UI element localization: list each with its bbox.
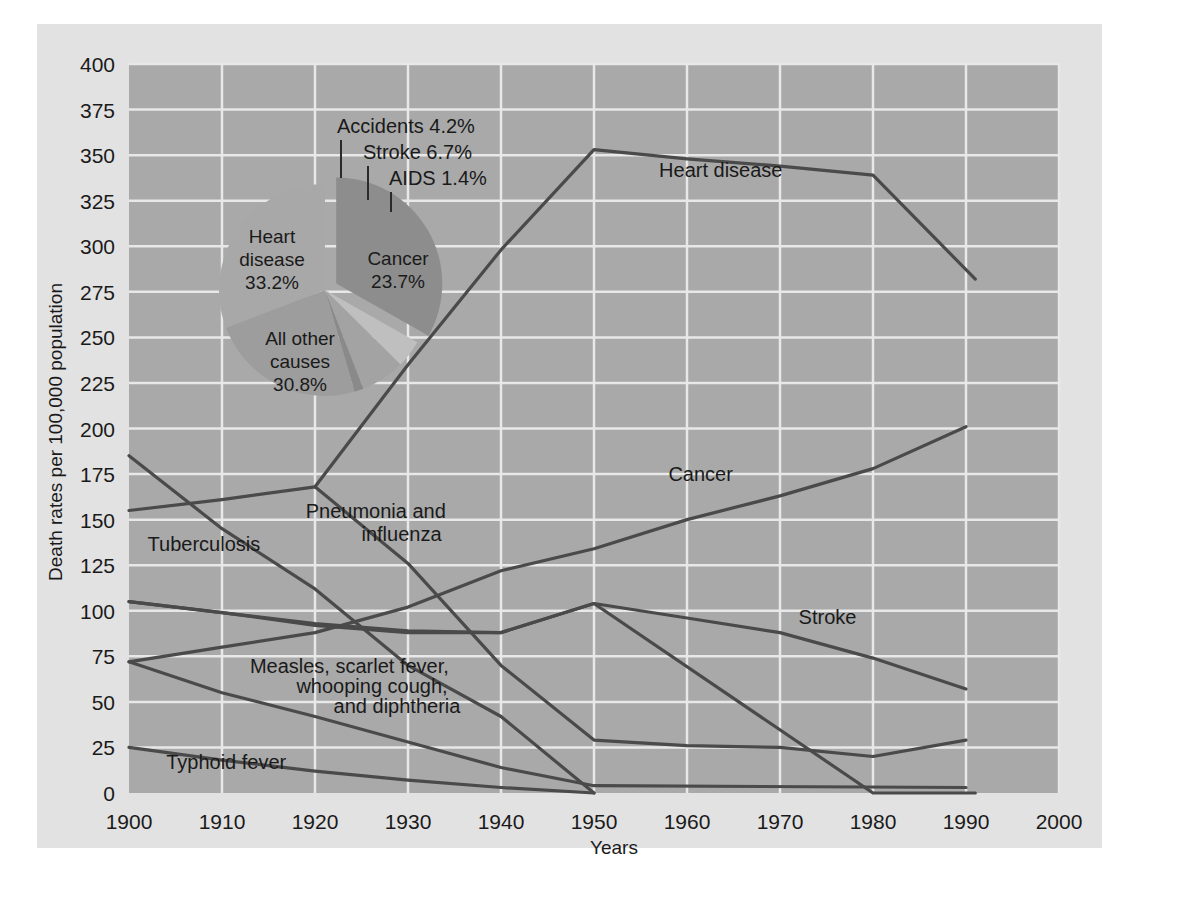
y-tick-label: 50 — [92, 691, 115, 714]
x-axis-title: Years — [590, 837, 638, 858]
series-inline-label: Measles, scarlet fever, — [250, 655, 449, 677]
x-tick-label: 1980 — [850, 810, 897, 833]
series-inline-label: Typhoid fever — [166, 751, 286, 773]
pie-slice-label: 23.7% — [371, 271, 425, 292]
x-tick-label: 1900 — [106, 810, 153, 833]
x-tick-label: 1940 — [478, 810, 525, 833]
pie-slice-label: 33.2% — [245, 272, 299, 293]
y-tick-label: 175 — [80, 463, 115, 486]
x-tick-label: 1930 — [385, 810, 432, 833]
x-axis-tick-labels: 1900191019201930194019501960197019801990… — [106, 810, 1083, 833]
series-inline-label: influenza — [362, 523, 443, 545]
y-tick-label: 25 — [92, 736, 115, 759]
y-tick-label: 0 — [103, 782, 115, 805]
y-tick-label: 100 — [80, 600, 115, 623]
x-tick-label: 1970 — [757, 810, 804, 833]
x-tick-label: 1950 — [571, 810, 618, 833]
series-inline-label: and diphtheria — [334, 695, 462, 717]
y-tick-label: 325 — [80, 190, 115, 213]
series-inline-label: Cancer — [668, 463, 733, 485]
pie-slice-label: disease — [239, 249, 305, 270]
y-tick-label: 125 — [80, 554, 115, 577]
x-tick-label: 1960 — [664, 810, 711, 833]
y-tick-label: 150 — [80, 509, 115, 532]
series-inline-label: Pneumonia and — [306, 500, 446, 522]
y-tick-label: 200 — [80, 418, 115, 441]
pie-slice-label: Cancer — [367, 248, 429, 269]
y-tick-label: 300 — [80, 235, 115, 258]
pie-slice-label: Heart — [249, 226, 296, 247]
x-tick-label: 1990 — [943, 810, 990, 833]
series-inline-label: Tuberculosis — [148, 533, 261, 555]
y-tick-label: 75 — [92, 645, 115, 668]
x-tick-label: 1920 — [292, 810, 339, 833]
series-inline-label: Heart disease — [659, 159, 782, 181]
figure-container: 0255075100125150175200225250275300325350… — [0, 0, 1179, 898]
y-axis-title: Death rates per 100,000 population — [45, 283, 66, 581]
y-axis-tick-labels: 0255075100125150175200225250275300325350… — [80, 53, 115, 805]
y-tick-label: 225 — [80, 372, 115, 395]
pie-callout-label: AIDS 1.4% — [389, 167, 487, 189]
pie-callout-label: Stroke 6.7% — [363, 141, 472, 163]
y-tick-label: 250 — [80, 326, 115, 349]
series-inline-label: Stroke — [799, 606, 857, 628]
y-tick-label: 400 — [80, 53, 115, 76]
pie-slice-label: 30.8% — [273, 374, 327, 395]
pie-callout-label: Accidents 4.2% — [337, 115, 475, 137]
x-tick-label: 1910 — [199, 810, 246, 833]
x-tick-label: 2000 — [1036, 810, 1083, 833]
series-inline-label: whooping cough, — [295, 675, 447, 697]
pie-slice-label: All other — [265, 328, 335, 349]
pie-slice-label: causes — [270, 351, 330, 372]
y-tick-label: 350 — [80, 144, 115, 167]
mortality-chart: 0255075100125150175200225250275300325350… — [0, 0, 1179, 898]
y-tick-label: 275 — [80, 281, 115, 304]
y-tick-label: 375 — [80, 99, 115, 122]
